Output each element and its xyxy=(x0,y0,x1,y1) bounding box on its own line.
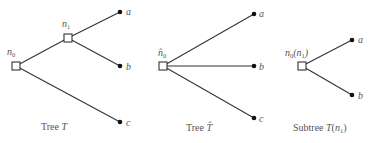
edge-n0hat-a xyxy=(163,14,254,66)
edge-n0-c xyxy=(16,66,120,122)
edge-n1-b xyxy=(68,38,120,66)
caption-tree-t-hat: Tree T̂ xyxy=(186,121,213,133)
leaf-b-label: b xyxy=(259,61,264,72)
tree-t-hat: n̂0 a b c Tree T̂ xyxy=(158,8,264,133)
leaf-b-dot xyxy=(252,64,257,69)
leaf-b-label: b xyxy=(358,90,363,101)
leaf-a-dot xyxy=(252,12,257,17)
leaf-b-dot xyxy=(350,93,355,98)
node-n0-n1-box xyxy=(298,62,306,70)
node-n0-box xyxy=(12,62,20,70)
leaf-c-label: c xyxy=(259,113,264,124)
caption-tree-t: Tree T xyxy=(41,121,68,132)
node-n1-label: n1 xyxy=(62,18,70,30)
edge-n1-a xyxy=(68,12,120,38)
node-n0hat-label: n̂0 xyxy=(158,47,166,59)
node-n0-n1-label: n0(n1) xyxy=(285,47,309,59)
leaf-a-dot xyxy=(350,38,355,43)
leaf-a-label: a xyxy=(358,34,363,45)
leaf-c-label: c xyxy=(126,117,131,128)
leaf-c-dot xyxy=(252,116,257,121)
leaf-a-label: a xyxy=(259,8,264,19)
edge-n0-n1 xyxy=(16,38,68,66)
tree-diagram: n0 n1 a b c Tree T n̂0 a b c Tree T̂ n0(… xyxy=(0,0,373,143)
edge-root-b xyxy=(302,66,352,95)
leaf-c-dot xyxy=(118,120,123,125)
leaf-b-label: b xyxy=(126,61,131,72)
edge-root-a xyxy=(302,40,352,66)
edge-n0hat-c xyxy=(163,66,254,118)
leaf-a-dot xyxy=(118,10,123,15)
node-n0-label: n0 xyxy=(7,46,15,58)
tree-t: n0 n1 a b c Tree T xyxy=(7,6,131,132)
node-n1-box xyxy=(64,34,72,42)
leaf-b-dot xyxy=(118,64,123,69)
node-n0hat-box xyxy=(159,62,167,70)
caption-subtree: Subtree T(n1) xyxy=(293,122,347,134)
leaf-a-label: a xyxy=(126,6,131,17)
subtree-t-n1: n0(n1) a b Subtree T(n1) xyxy=(285,34,363,134)
